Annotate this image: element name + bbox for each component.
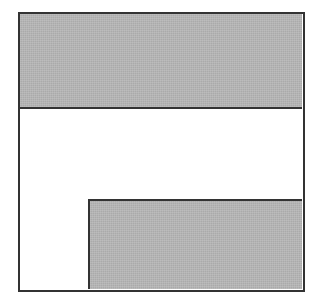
unshaded-middle-band	[20, 109, 302, 199]
shaded-top-band	[20, 14, 302, 109]
square-interior	[20, 14, 303, 290]
outer-square-outline	[18, 12, 305, 292]
unshaded-bottom-left-notch	[20, 199, 88, 289]
shaded-bottom-right-band	[88, 199, 302, 289]
diagram-canvas	[0, 0, 321, 305]
